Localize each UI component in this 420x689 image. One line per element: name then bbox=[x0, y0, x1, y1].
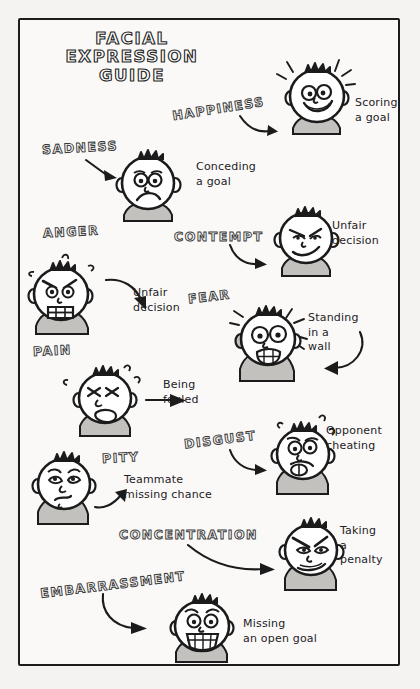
caption-pain: Being fouled bbox=[163, 378, 199, 407]
face-happiness bbox=[275, 58, 359, 136]
face-embarrassment bbox=[158, 588, 250, 664]
label-concentration: CONCENTRATION bbox=[119, 527, 258, 542]
caption-embarrassment: Missing an open goal bbox=[243, 617, 317, 646]
poster-stage: FACIAL EXPRESSION GUIDE HAPPINESS bbox=[0, 0, 420, 689]
face-pity bbox=[22, 442, 108, 526]
caption-happiness: Scoring a goal bbox=[355, 96, 398, 125]
caption-contempt: Unfair decision bbox=[332, 219, 379, 248]
arrow-contempt bbox=[228, 243, 270, 273]
title-line-1: FACIAL bbox=[52, 30, 212, 48]
label-contempt: CONTEMPT bbox=[174, 229, 263, 244]
title-line-2: EXPRESSION bbox=[52, 48, 212, 66]
label-fear: FEAR bbox=[187, 286, 231, 306]
face-pain bbox=[62, 356, 156, 438]
face-sadness bbox=[108, 147, 190, 223]
face-anger bbox=[18, 252, 114, 336]
label-sadness: SADNESS bbox=[42, 138, 119, 157]
poster-canvas: FACIAL EXPRESSION GUIDE HAPPINESS bbox=[0, 0, 420, 689]
title-line-3: GUIDE bbox=[52, 67, 212, 85]
arrow-embarrassment bbox=[99, 592, 161, 636]
label-anger: ANGER bbox=[43, 223, 100, 241]
arrow-concentration bbox=[186, 543, 278, 577]
caption-sadness: Conceding a goal bbox=[196, 160, 256, 189]
caption-pity: Teammate missing chance bbox=[124, 473, 212, 502]
caption-anger: Unfair decision bbox=[133, 286, 180, 315]
caption-disgust: Opponent cheating bbox=[326, 424, 382, 453]
page-title: FACIAL EXPRESSION GUIDE bbox=[52, 30, 212, 85]
face-fear bbox=[226, 297, 316, 383]
arrow-happiness bbox=[238, 112, 280, 138]
arrow-fear bbox=[308, 330, 368, 378]
caption-concentration: Taking a penalty bbox=[340, 524, 383, 568]
